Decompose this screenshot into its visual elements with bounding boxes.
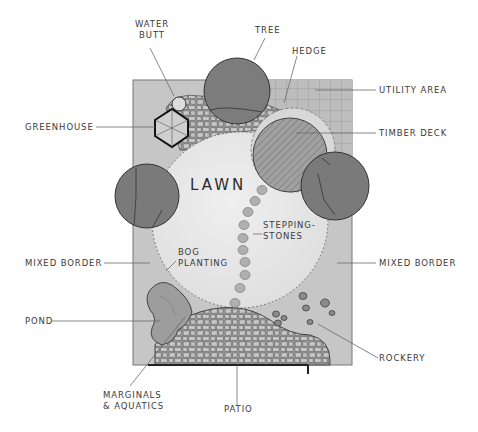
tree-right xyxy=(301,152,369,220)
label-marginals-aquatics: MARGINALS & AQUATICS xyxy=(103,390,164,412)
label-bog-planting-line2: PLANTING xyxy=(178,258,228,269)
label-water-butt: WATER BUTT xyxy=(127,19,177,41)
water-butt xyxy=(172,97,186,111)
label-timber-deck: TIMBER DECK xyxy=(379,128,447,139)
tree-top xyxy=(204,58,270,124)
label-marginals-line1: MARGINALS xyxy=(103,390,164,401)
label-lawn: LAWN xyxy=(190,176,246,194)
label-hedge: HEDGE xyxy=(292,46,327,57)
label-mixed-border-left: MIXED BORDER xyxy=(25,258,102,269)
label-water-butt-line1: WATER xyxy=(127,19,177,30)
label-utility-area: UTILITY AREA xyxy=(379,85,447,96)
label-greenhouse: GREENHOUSE xyxy=(25,122,94,133)
label-mixed-border-right: MIXED BORDER xyxy=(379,258,456,269)
label-bog-planting: BOG PLANTING xyxy=(178,247,228,269)
label-tree: TREE xyxy=(255,25,280,36)
label-pond: POND xyxy=(25,316,53,327)
label-stepping-stones-line1: STEPPING- xyxy=(263,220,316,231)
garden-plan-drawing xyxy=(0,0,478,432)
label-stepping-stones: STEPPING- STONES xyxy=(263,220,316,242)
label-water-butt-line2: BUTT xyxy=(127,30,177,41)
label-stepping-stones-line2: STONES xyxy=(263,231,316,242)
tree-left xyxy=(115,164,179,228)
label-patio: PATIO xyxy=(224,404,253,415)
label-bog-planting-line1: BOG xyxy=(178,247,228,258)
label-rockery: ROCKERY xyxy=(379,353,425,364)
label-marginals-line2: & AQUATICS xyxy=(103,401,164,412)
